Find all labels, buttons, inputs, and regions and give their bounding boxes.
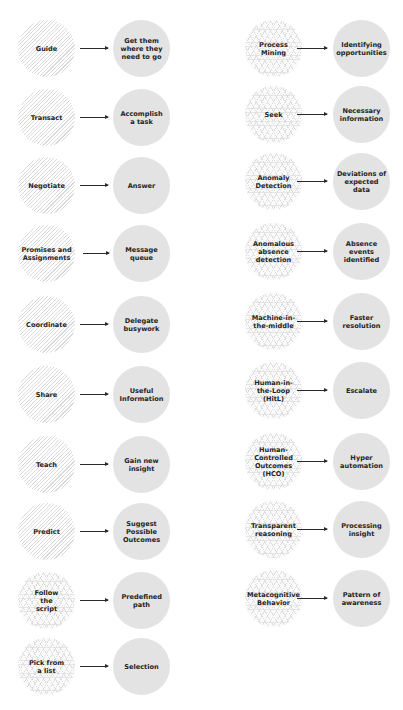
source-label: Anomalous absence detection [251,240,297,264]
source-node: Metacognitive Behavior [245,570,302,627]
source-node: Human-in-the-Loop (HitL) [245,362,302,419]
source-node: Machine-in-the-middle [245,293,302,350]
source-label: Pick from a list [25,659,69,675]
source-node: Process Mining [245,20,302,77]
target-node: Identifying opportunities [333,20,390,77]
mapping-row-hitl: Human-in-the-Loop (HitL) Escalate [0,362,403,420]
target-label: Pattern of awareness [339,591,385,607]
target-node: Processing insight [333,501,390,558]
target-label: Absence events identified [341,240,383,264]
source-node: Pick from a list [18,638,75,695]
arrow-icon [297,461,327,462]
target-node: Deviations of expected data [333,153,390,210]
target-node: Hyper automation [333,433,390,490]
source-label: Seek [262,111,284,119]
target-label: Escalate [344,387,379,395]
mapping-row-pick-from-a-list: Pick from a list Selection [0,638,180,696]
arrow-icon [297,181,327,182]
source-label: Human-Controlled Outcomes (HCO) [252,446,296,478]
target-label: Deviations of expected data [333,170,390,194]
target-node: Faster resolution [333,293,390,350]
target-label: Hyper automation [338,454,386,470]
mapping-row-metacognitive-behavior: Metacognitive Behavior Pattern of awaren… [0,570,403,628]
source-node: Anomalous absence detection [245,223,302,280]
arrow-icon [297,598,327,599]
target-label: Selection [122,663,161,671]
arrow-icon [297,114,327,115]
target-node: Necessary information [333,86,390,143]
mapping-row-anomaly-detection: Anomaly Detection Deviations of expected… [0,153,403,211]
target-node: Escalate [333,362,390,419]
source-node: Anomaly Detection [245,153,302,210]
arrow-icon [297,321,327,322]
mapping-row-transparent-reasoning: Transparent reasoning Processing insight [0,501,403,559]
source-node: Seek [245,86,302,143]
target-label: Processing insight [338,522,386,538]
source-node: Transparent reasoning [245,501,302,558]
arrow-icon [297,529,327,530]
source-label: Human-in-the-Loop (HitL) [250,379,298,403]
target-node: Selection [113,638,170,695]
target-label: Identifying opportunities [333,41,390,57]
source-label: Anomaly Detection [253,174,295,190]
target-node: Absence events identified [333,223,390,280]
target-node: Pattern of awareness [333,570,390,627]
arrow-icon [297,251,327,252]
source-label: Transparent reasoning [248,522,300,538]
source-label: Machine-in-the-middle [248,314,300,330]
mapping-row-hco: Human-Controlled Outcomes (HCO) Hyper au… [0,433,403,491]
arrow-icon [297,390,327,391]
mapping-row-process-mining: Process Mining Identifying opportunities [0,20,403,78]
source-label: Metacognitive Behavior [245,591,302,607]
mapping-row-seek: Seek Necessary information [0,86,403,144]
source-label: Process Mining [255,41,293,57]
arrow-icon [80,666,108,667]
source-node: Human-Controlled Outcomes (HCO) [245,433,302,490]
mapping-row-anomalous-absence: Anomalous absence detection Absence even… [0,223,403,281]
target-label: Faster resolution [340,314,384,330]
arrow-icon [297,48,327,49]
mapping-row-machine-in-the-middle: Machine-in-the-middle Faster resolution [0,293,403,351]
target-label: Necessary information [337,107,387,123]
